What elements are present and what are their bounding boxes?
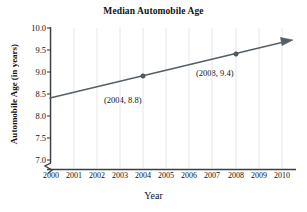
plot-area [0, 0, 307, 212]
gridlines [51, 28, 282, 168]
line-arrowhead [281, 38, 294, 46]
data-marker-2008 [234, 52, 238, 56]
data-series-line [50, 38, 293, 99]
data-marker-2004 [141, 74, 145, 78]
chart-figure: Median Automobile Age Automobile Age (in… [0, 0, 307, 212]
